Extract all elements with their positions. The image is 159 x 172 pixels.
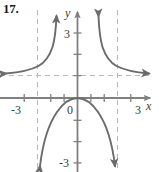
y-axis-label: y [64,6,71,20]
x-tick-label-neg3: -3 [11,103,21,117]
curve-left-branch [6,16,57,74]
figure-container: 17. [0,0,159,172]
curve-right-branch [99,16,150,74]
graph-plot: x y -3 3 0 3 -3 [0,0,159,172]
origin-label: 0 [67,103,73,117]
y-tick-label-neg3: -3 [59,156,69,170]
x-axis-label: x [145,99,152,113]
x-tick-label-pos3: 3 [135,103,141,117]
y-tick-label-pos3: 3 [64,27,70,41]
